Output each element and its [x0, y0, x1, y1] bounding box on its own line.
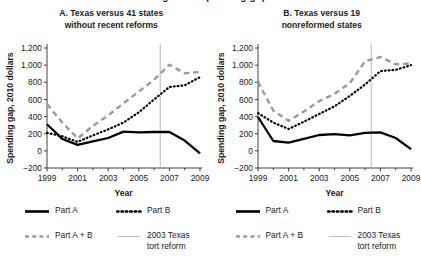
legend-label-part-a: Part A: [55, 205, 78, 216]
legend-item-tort-reform: 2003 Texas tort reform: [327, 230, 421, 251]
legend-label-part-a-plus-b: Part A + B: [266, 230, 303, 241]
y-tick-label: 1,000: [21, 60, 42, 70]
legend-swatch-vline-icon: [327, 231, 353, 242]
legend-swatch-solid-icon: [235, 206, 261, 217]
legend-item-part-a-plus-b: Part A + B: [24, 230, 116, 242]
y-tick-label: 400: [239, 112, 253, 122]
legend-label-tort-reform: 2003 Texas tort reform: [147, 230, 190, 251]
legend-swatch-dotted-icon: [327, 206, 353, 217]
y-tick-label: 800: [239, 77, 253, 87]
series-line: [258, 117, 411, 149]
y-tick-label: 600: [239, 95, 253, 105]
legend-label-part-b: Part B: [358, 205, 381, 216]
x-tick-label: 2007: [371, 173, 390, 183]
y-axis-label: Spending gap, 2010 dollars: [5, 52, 15, 163]
y-tick-label: 0: [248, 146, 253, 156]
x-tick-label: 2005: [340, 173, 359, 183]
legend-label-part-b: Part B: [147, 205, 170, 216]
y-tick-label: 1,200: [232, 43, 253, 53]
x-tick-label: 2007: [160, 173, 179, 183]
legend-item-part-a: Part A: [235, 205, 327, 217]
x-axis-label: Year: [114, 188, 133, 198]
legend-swatch-vline-icon: [116, 231, 142, 242]
x-tick-label: 1999: [248, 173, 267, 183]
legend-label-part-a: Part A: [266, 205, 289, 216]
panel-b: B. Texas versus 19 nonreformed states −2…: [211, 8, 421, 198]
x-tick-label: 2001: [279, 173, 298, 183]
y-tick-label: −200: [234, 163, 253, 173]
legend-item-tort-reform: 2003 Texas tort reform: [116, 230, 210, 251]
x-tick-label: 2005: [129, 173, 148, 183]
legend-panel-b: Part A Part B Part A + B 2003 Texas tort…: [211, 205, 421, 258]
y-tick-label: 1,200: [21, 43, 42, 53]
panels-row: A. Texas versus 41 states without recent…: [0, 8, 421, 198]
series-line: [258, 65, 411, 129]
x-tick-label: 2003: [99, 173, 118, 183]
y-tick-label: −200: [23, 163, 42, 173]
legend-swatch-solid-icon: [24, 206, 50, 217]
figure-clipped-title: Figure 3. Spending gap: [0, 0, 421, 2]
y-tick-label: 400: [28, 112, 42, 122]
x-tick-label: 2009: [191, 173, 210, 183]
legend-panel-a: Part A Part B Part A + B 2003 Texas tort…: [0, 205, 211, 258]
y-tick-label: 800: [28, 77, 42, 87]
x-tick-label: 1999: [38, 173, 57, 183]
series-line: [47, 65, 200, 139]
legend-swatch-dashed-icon: [24, 231, 50, 242]
legend-item-part-a: Part A: [24, 205, 116, 217]
series-line: [258, 57, 411, 121]
legend-label-part-a-plus-b: Part A + B: [55, 230, 92, 241]
panel-a: A. Texas versus 41 states without recent…: [0, 8, 211, 198]
x-tick-label: 2001: [68, 173, 87, 183]
panel-b-plot: −20002004006008001,0001,2001999200120032…: [211, 8, 421, 198]
y-tick-label: 1,000: [232, 60, 253, 70]
x-tick-label: 2009: [401, 173, 420, 183]
y-tick-label: 0: [37, 146, 42, 156]
legend-item-part-b: Part B: [116, 205, 210, 217]
legend-swatch-dashed-icon: [235, 231, 261, 242]
x-tick-label: 2003: [309, 173, 328, 183]
y-tick-label: 200: [239, 129, 253, 139]
y-tick-label: 600: [28, 95, 42, 105]
legend-label-tort-reform: 2003 Texas tort reform: [358, 230, 401, 251]
y-axis-label: Spending gap, 2010 dollars: [216, 52, 226, 163]
figure-container: Figure 3. Spending gap A. Texas versus 4…: [0, 0, 421, 258]
legend-item-part-a-plus-b: Part A + B: [235, 230, 327, 242]
legend-item-part-b: Part B: [327, 205, 421, 217]
x-axis-label: Year: [325, 188, 344, 198]
y-tick-label: 200: [28, 129, 42, 139]
legend-swatch-dotted-icon: [116, 206, 142, 217]
panel-a-plot: −20002004006008001,0001,2001999200120032…: [0, 8, 210, 198]
